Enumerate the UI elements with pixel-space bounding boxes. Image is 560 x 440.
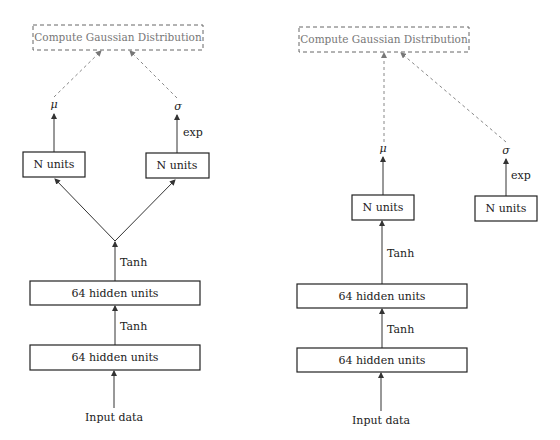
right-activation-2-label: Tanh [387,323,414,336]
diagram-canvas: Compute Gaussian Distribution μ σ exp N … [0,0,560,440]
right-exp-label: exp [511,169,531,182]
right-input-label: Input data [352,414,410,427]
left-branch-to-sigma-arrow [115,180,175,241]
left-hidden-layer-1: 64 hidden units [30,345,200,370]
left-exp-label: exp [183,126,203,139]
left-mu-head-box: N units [23,152,85,177]
right-hidden-layer-1: 64 hidden units [297,348,467,372]
right-diagram: Compute Gaussian Distribution μ σ exp N … [297,27,537,427]
left-mu-label: μ [50,98,57,111]
left-mu-head-label: N units [34,158,75,171]
left-sigma-head-label: N units [157,159,198,172]
left-activation-2-label: Tanh [120,320,147,333]
right-hidden-layer-1-label: 64 hidden units [338,354,425,367]
right-gaussian-label: Compute Gaussian Distribution [300,33,468,45]
right-mu-head-label: N units [363,201,404,214]
right-mu-head-box: N units [352,195,414,220]
left-gaussian-label: Compute Gaussian Distribution [34,31,202,43]
left-sigma-head-box: N units [146,153,209,178]
left-branch-activation-label: Tanh [120,256,147,269]
right-sigma-head-label: N units [486,202,527,215]
right-branch-activation-label: Tanh [387,247,414,260]
left-diagram: Compute Gaussian Distribution μ σ exp N … [23,25,209,424]
left-input-label: Input data [85,411,143,424]
right-sigma-head-box: N units [475,196,537,221]
left-hidden-layer-1-label: 64 hidden units [71,351,158,364]
left-hidden-layer-2-label: 64 hidden units [71,287,158,300]
left-gaussian-box: Compute Gaussian Distribution [33,25,203,50]
left-hidden-layer-2: 64 hidden units [30,281,200,305]
left-sigma-label: σ [174,100,182,113]
right-gaussian-box: Compute Gaussian Distribution [299,27,469,52]
right-sigma-label: σ [502,144,510,157]
left-mu-to-gaussian-arrow [54,51,101,97]
right-hidden-layer-2: 64 hidden units [297,284,467,308]
right-sigma-to-gaussian-arrow [401,53,506,142]
right-hidden-layer-2-label: 64 hidden units [338,290,425,303]
left-sigma-to-gaussian-arrow [130,51,177,98]
right-mu-label: μ [379,142,386,155]
left-branch-to-mu-arrow [55,179,115,241]
